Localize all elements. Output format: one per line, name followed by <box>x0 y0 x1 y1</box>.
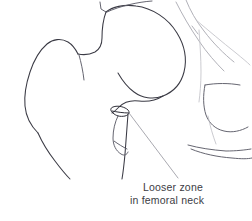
hip-radiograph-line-figure: Looser zone in femoral neck <box>0 0 252 221</box>
annotation-leader-line <box>129 113 178 178</box>
femoral-shaft-lateral-cortex <box>38 133 70 179</box>
lesser-trochanter-base <box>114 141 127 149</box>
greater-trochanter-outline <box>25 40 78 133</box>
femoral-head-medial-notch <box>78 12 106 55</box>
annotation-label-line-2: in femoral neck <box>130 194 204 207</box>
femoral-neck-inferior-border <box>112 96 163 113</box>
annotation-label-line-1: Looser zone <box>143 181 203 194</box>
brim-crossing-tick <box>192 26 198 34</box>
pelvic-brim-line <box>186 0 234 62</box>
obturator-foramen-outline <box>205 84 240 86</box>
iliopectineal-line <box>196 20 250 65</box>
ischial-ramus-stub <box>208 116 216 144</box>
inferior-pubic-ramus-upper <box>188 145 251 151</box>
acetabular-roof-line <box>176 2 224 71</box>
femoral-head-outline <box>106 5 185 98</box>
trochanteric-fossa-ridge <box>79 55 84 80</box>
fovea-notch-mark <box>100 2 106 12</box>
acetabular-rim-upper <box>107 1 152 12</box>
anatomy-linework-canvas <box>0 0 252 221</box>
looser-zone-cleft-line <box>112 111 129 113</box>
